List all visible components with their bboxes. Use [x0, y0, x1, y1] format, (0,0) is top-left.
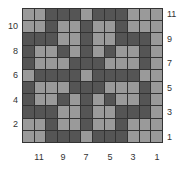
- row-label-10: 10: [8, 21, 18, 31]
- row-label-3: 3: [167, 107, 172, 117]
- grid-cell: [128, 21, 139, 32]
- grid-cell: [116, 106, 127, 117]
- grid-cell: [46, 94, 57, 105]
- grid-cell: [116, 21, 127, 32]
- grid-cell: [70, 106, 81, 117]
- grid-cell: [23, 70, 34, 81]
- grid-cell: [35, 58, 46, 69]
- grid-cell: [46, 119, 57, 130]
- grid-cell: [70, 131, 81, 142]
- grid-cell: [140, 46, 151, 57]
- grid-cell: [46, 9, 57, 20]
- grid-cell: [58, 21, 69, 32]
- grid-cell: [116, 58, 127, 69]
- grid-cell: [128, 82, 139, 93]
- grid-cell: [151, 131, 162, 142]
- grid-cell: [151, 82, 162, 93]
- grid-cell: [105, 70, 116, 81]
- grid-cell: [140, 94, 151, 105]
- grid-cell: [70, 119, 81, 130]
- grid-cell: [81, 33, 92, 44]
- grid-cell: [46, 70, 57, 81]
- grid-cell: [128, 106, 139, 117]
- grid-cell: [46, 46, 57, 57]
- grid-cell: [151, 58, 162, 69]
- grid-cell: [70, 21, 81, 32]
- grid-cell: [46, 21, 57, 32]
- grid-cell: [128, 70, 139, 81]
- grid-cell: [81, 119, 92, 130]
- grid-cell: [35, 46, 46, 57]
- grid-cell: [140, 33, 151, 44]
- grid-cell: [70, 70, 81, 81]
- grid-cell: [116, 94, 127, 105]
- grid-cell: [93, 9, 104, 20]
- grid-cell: [70, 46, 81, 57]
- row-label-9: 9: [167, 34, 172, 44]
- grid-cell: [23, 9, 34, 20]
- grid-cell: [46, 82, 57, 93]
- grid-cell: [128, 33, 139, 44]
- grid-cell: [70, 58, 81, 69]
- grid-cell: [23, 131, 34, 142]
- grid-cell: [23, 119, 34, 130]
- grid-cell: [93, 33, 104, 44]
- grid-cell: [105, 119, 116, 130]
- col-label-9: 9: [56, 152, 70, 162]
- grid-cell: [105, 131, 116, 142]
- row-label-7: 7: [167, 58, 172, 68]
- grid-cell: [23, 82, 34, 93]
- grid-cell: [151, 106, 162, 117]
- grid-cell: [93, 94, 104, 105]
- grid-cell: [116, 9, 127, 20]
- row-label-1: 1: [167, 132, 172, 142]
- row-label-6: 6: [8, 70, 18, 80]
- grid-cell: [105, 82, 116, 93]
- grid-cell: [105, 58, 116, 69]
- grid-cell: [35, 70, 46, 81]
- grid-cell: [128, 9, 139, 20]
- grid-cell: [70, 33, 81, 44]
- grid-cell: [93, 21, 104, 32]
- grid-cell: [35, 94, 46, 105]
- grid-cell: [116, 131, 127, 142]
- row-label-4: 4: [8, 95, 18, 105]
- grid-cell: [35, 119, 46, 130]
- grid-cell: [116, 119, 127, 130]
- grid-cell: [128, 94, 139, 105]
- grid-cell: [140, 106, 151, 117]
- grid-cell: [23, 21, 34, 32]
- grid-cell: [70, 94, 81, 105]
- grid-cell: [128, 46, 139, 57]
- grid-cell: [46, 106, 57, 117]
- grid-cell: [46, 33, 57, 44]
- grid-cell: [116, 46, 127, 57]
- grid-cell: [151, 21, 162, 32]
- grid-cell: [105, 21, 116, 32]
- grid-cell: [105, 106, 116, 117]
- grid-cell: [58, 131, 69, 142]
- grid-cell: [93, 82, 104, 93]
- grid-cell: [58, 82, 69, 93]
- grid-cell: [81, 94, 92, 105]
- grid-cell: [81, 46, 92, 57]
- grid-cell: [151, 94, 162, 105]
- grid-cell: [140, 82, 151, 93]
- grid-cell: [140, 119, 151, 130]
- grid-cell: [81, 82, 92, 93]
- grid-cell: [70, 82, 81, 93]
- grid-cell: [81, 106, 92, 117]
- grid-cell: [58, 106, 69, 117]
- grid-cell: [35, 131, 46, 142]
- row-label-8: 8: [8, 46, 18, 56]
- grid-cell: [35, 9, 46, 20]
- col-label-3: 3: [126, 152, 140, 162]
- grid-cell: [58, 70, 69, 81]
- grid-cell: [58, 46, 69, 57]
- row-label-2: 2: [8, 119, 18, 129]
- grid-cell: [35, 33, 46, 44]
- grid-cell: [93, 46, 104, 57]
- grid-cell: [140, 9, 151, 20]
- grid-cell: [105, 33, 116, 44]
- grid-cell: [93, 106, 104, 117]
